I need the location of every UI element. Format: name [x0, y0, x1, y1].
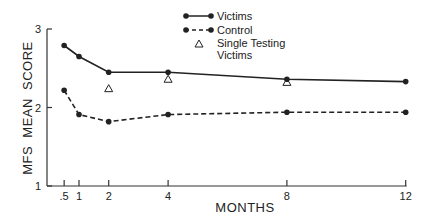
legend-single-label-1: Single Testing [217, 37, 285, 49]
y-tick-label: 1 [35, 180, 41, 192]
legend-victims-dot-icon [208, 13, 214, 19]
x-tick-label: 1 [76, 190, 82, 202]
legend-control-dot-icon [208, 27, 214, 33]
legend-victims-dot-icon [183, 13, 189, 19]
data-point [76, 112, 82, 118]
data-point [106, 69, 112, 75]
data-point [284, 109, 290, 115]
data-point [61, 87, 67, 93]
line-chart: 123.5124812 Victims Control Single Testi… [0, 0, 426, 221]
legend-control-dot-icon [183, 27, 189, 33]
legend-single-label-2: Victims [217, 49, 253, 61]
data-point [76, 54, 82, 60]
x-tick-label: 12 [400, 190, 412, 202]
x-tick-label: 4 [165, 190, 171, 202]
y-axis-title: MFS MEAN SCORE [20, 41, 35, 174]
triangle-marker-icon [164, 75, 172, 82]
x-tick-label: 2 [106, 190, 112, 202]
legend: Victims Control Single Testing Victims [183, 10, 285, 61]
y-tick-label: 3 [35, 23, 41, 35]
data-point [106, 119, 112, 125]
x-axis-title: MONTHS [215, 200, 274, 215]
legend-victims-label: Victims [217, 10, 253, 22]
control-line [64, 90, 406, 121]
triangle-marker-icon [105, 85, 113, 92]
x-tick-label: .5 [60, 190, 69, 202]
data-point [61, 43, 67, 49]
data-point [403, 109, 409, 115]
legend-control-label: Control [217, 24, 252, 36]
legend-triangle-icon [195, 40, 203, 47]
data-point [165, 112, 171, 118]
y-tick-label: 2 [35, 102, 41, 114]
x-tick-label: 8 [284, 190, 290, 202]
data-point [165, 69, 171, 75]
data-point [403, 79, 409, 85]
